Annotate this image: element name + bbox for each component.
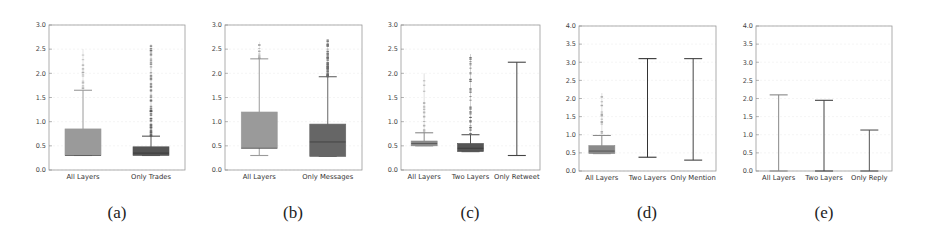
y-tick-label: 2.5 — [743, 77, 753, 85]
caption-c: (c) — [440, 203, 500, 223]
y-tick-label: 0.5 — [743, 149, 753, 157]
y-tick-label: 3.0 — [743, 59, 753, 67]
x-tick-label: All Layers — [762, 174, 796, 182]
y-tick-label: 3.5 — [743, 40, 753, 48]
y-tick-label: 0.0 — [743, 167, 753, 175]
y-tick-label: 1.0 — [743, 131, 753, 139]
box-two-layers — [815, 100, 833, 171]
y-tick-label: 2.0 — [743, 95, 753, 103]
x-tick-label: Two Layers — [804, 174, 843, 182]
x-tick-label: Only Reply — [851, 174, 888, 182]
caption-b: (b) — [263, 203, 323, 223]
caption-e: (e) — [794, 203, 854, 223]
box-only-reply — [860, 130, 878, 171]
y-tick-label: 4.0 — [743, 22, 753, 30]
caption-d: (d) — [617, 203, 677, 223]
box-all-layers — [770, 95, 788, 171]
y-tick-label: 1.5 — [743, 113, 753, 121]
caption-a: (a) — [87, 203, 147, 223]
